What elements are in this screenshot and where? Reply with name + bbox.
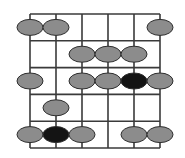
fretboard-svg	[0, 0, 185, 158]
scale-note-dot	[17, 127, 43, 143]
fretboard-diagram	[0, 0, 185, 158]
scale-note-dot	[95, 73, 121, 89]
scale-note-dot	[147, 127, 173, 143]
scale-note-dot	[17, 19, 43, 35]
scale-notes	[17, 19, 173, 142]
scale-note-dot	[121, 127, 147, 143]
scale-note-dot	[69, 73, 95, 89]
scale-note-dot	[43, 19, 69, 35]
scale-note-dot	[69, 127, 95, 143]
scale-note-dot	[147, 73, 173, 89]
root-note-dot	[43, 127, 69, 143]
root-note-dot	[121, 73, 147, 89]
scale-note-dot	[17, 73, 43, 89]
scale-note-dot	[69, 46, 95, 62]
scale-note-dot	[147, 19, 173, 35]
scale-note-dot	[121, 46, 147, 62]
scale-note-dot	[43, 100, 69, 116]
scale-note-dot	[95, 46, 121, 62]
